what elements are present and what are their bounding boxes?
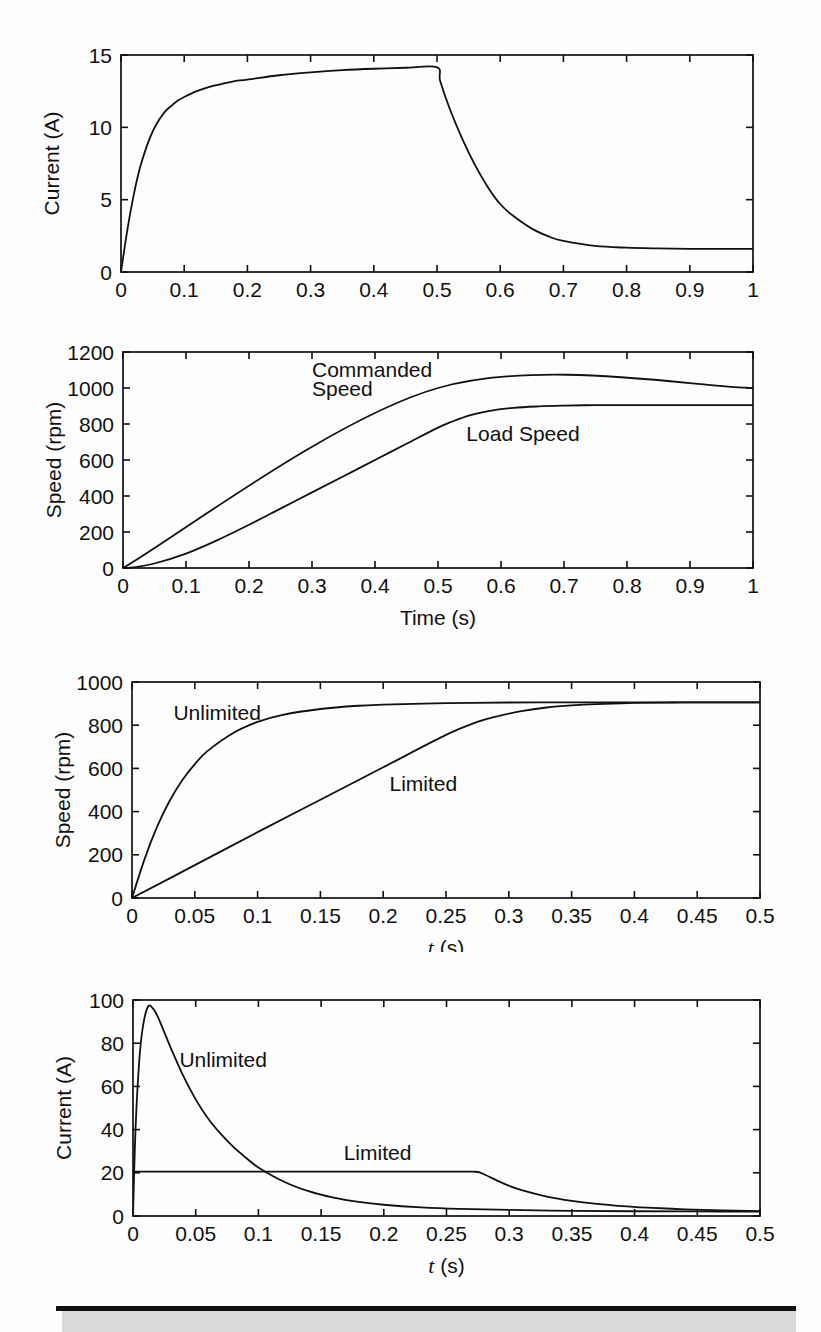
x-tick-label: 0.1 xyxy=(244,1222,273,1245)
x-tick-label: 0.1 xyxy=(170,278,199,301)
footer-panel xyxy=(62,1311,796,1332)
y-axis-title: Speed (rpm) xyxy=(51,732,74,849)
y-tick-label: 600 xyxy=(79,449,114,472)
y-tick-label: 400 xyxy=(79,485,114,508)
x-tick-label: 0.05 xyxy=(174,904,215,927)
y-tick-label: 1000 xyxy=(76,671,123,694)
x-tick-label: 0.45 xyxy=(677,904,718,927)
x-tick-label: 0.3 xyxy=(494,904,523,927)
y-tick-label: 400 xyxy=(88,800,123,823)
y-tick-label: 0 xyxy=(112,1205,124,1228)
curve-annotation: Load Speed xyxy=(466,422,579,445)
series-limited xyxy=(132,702,760,898)
x-tick-label: 0.6 xyxy=(486,574,515,597)
x-tick-label: 0.9 xyxy=(675,278,704,301)
y-tick-label: 1000 xyxy=(67,377,114,400)
y-axis-title: Current (A) xyxy=(52,1056,75,1160)
x-tick-label: 0.4 xyxy=(620,1222,650,1245)
x-tick-label: 0.5 xyxy=(422,278,451,301)
x-tick-label: 0.7 xyxy=(549,278,578,301)
x-tick-label: 0 xyxy=(115,278,127,301)
x-axis-title: t (s) xyxy=(428,1253,464,1278)
x-tick-label: 0.4 xyxy=(620,904,650,927)
chart-2-svg: 00.10.20.30.40.50.60.70.80.9102004006008… xyxy=(0,310,821,630)
series-unlimited xyxy=(132,702,760,898)
y-tick-label: 10 xyxy=(89,116,112,139)
y-axis-title: Current (A) xyxy=(40,112,63,216)
y-tick-label: 600 xyxy=(88,757,123,780)
plot-frame xyxy=(133,1000,760,1216)
y-tick-label: 800 xyxy=(79,413,114,436)
x-tick-label: 0.8 xyxy=(612,278,641,301)
x-tick-label: 0.25 xyxy=(426,904,467,927)
series-load-speed xyxy=(123,405,753,568)
curve-annotation: Limited xyxy=(344,1141,412,1164)
x-tick-label: 0.4 xyxy=(360,574,390,597)
x-tick-label: 0.2 xyxy=(234,574,263,597)
figure-page: 00.10.20.30.40.50.60.70.80.91051015Curre… xyxy=(0,0,821,1332)
x-tick-label: 0.45 xyxy=(677,1222,718,1245)
curve-annotation: Speed xyxy=(312,377,373,400)
x-axis-title: Time (s) xyxy=(400,606,476,629)
x-tick-label: 0.5 xyxy=(423,574,452,597)
y-tick-label: 100 xyxy=(89,989,124,1012)
x-tick-label: 0.3 xyxy=(495,1222,524,1245)
chart-4-svg: 00.050.10.150.20.250.30.350.40.450.50204… xyxy=(0,950,821,1280)
chart-speed-limited-vs-unlimited: 00.050.10.150.20.250.30.350.40.450.50200… xyxy=(0,632,821,952)
y-tick-label: 200 xyxy=(88,843,123,866)
plot-frame xyxy=(123,352,753,568)
plot-frame xyxy=(121,55,753,272)
x-tick-label: 0.35 xyxy=(551,1222,592,1245)
x-tick-label: 0.05 xyxy=(175,1222,216,1245)
x-tick-label: 0.9 xyxy=(675,574,704,597)
x-tick-label: 1 xyxy=(747,278,759,301)
x-tick-label: 0.1 xyxy=(171,574,200,597)
y-tick-label: 60 xyxy=(101,1075,124,1098)
x-tick-label: 0 xyxy=(127,1222,139,1245)
y-axis-title: Speed (rpm) xyxy=(42,402,65,519)
series-unlimited xyxy=(133,1005,760,1216)
x-tick-label: 0 xyxy=(117,574,129,597)
series-commanded-speed xyxy=(123,375,753,568)
series-limited xyxy=(133,1172,760,1211)
curve-annotation: Unlimited xyxy=(173,701,261,724)
y-tick-label: 200 xyxy=(79,521,114,544)
y-tick-label: 80 xyxy=(101,1032,124,1055)
x-tick-label: 0.25 xyxy=(426,1222,467,1245)
curve-annotation: Limited xyxy=(389,772,457,795)
x-tick-label: 0.7 xyxy=(549,574,578,597)
x-tick-label: 0.3 xyxy=(296,278,325,301)
y-tick-label: 5 xyxy=(100,188,112,211)
x-tick-label: 0 xyxy=(126,904,138,927)
curve-annotation: Unlimited xyxy=(179,1048,267,1071)
x-tick-label: 0.4 xyxy=(359,278,389,301)
chart-speed-vs-time: 00.10.20.30.40.50.60.70.80.9102004006008… xyxy=(0,310,821,630)
x-tick-label: 0.5 xyxy=(745,1222,774,1245)
y-tick-label: 0 xyxy=(111,887,123,910)
y-tick-label: 40 xyxy=(101,1118,124,1141)
x-tick-label: 0.2 xyxy=(369,1222,398,1245)
x-axis-title-unit: (s) xyxy=(434,1254,464,1277)
x-tick-label: 0.2 xyxy=(369,904,398,927)
x-tick-label: 0.15 xyxy=(300,904,341,927)
x-tick-label: 0.2 xyxy=(233,278,262,301)
x-tick-label: 0.3 xyxy=(297,574,326,597)
chart-3-svg: 00.050.10.150.20.250.30.350.40.450.50200… xyxy=(0,632,821,952)
chart-current-limited-vs-unlimited: 00.050.10.150.20.250.30.350.40.450.50204… xyxy=(0,950,821,1280)
x-tick-label: 0.6 xyxy=(486,278,515,301)
chart-current-vs-time: 00.10.20.30.40.50.60.70.80.91051015Curre… xyxy=(0,0,821,310)
y-tick-label: 20 xyxy=(101,1161,124,1184)
series-armature-current xyxy=(121,66,753,272)
x-tick-label: 1 xyxy=(747,574,759,597)
x-tick-label: 0.35 xyxy=(551,904,592,927)
y-tick-label: 0 xyxy=(102,557,114,580)
x-tick-label: 0.5 xyxy=(745,904,774,927)
x-tick-label: 0.15 xyxy=(301,1222,342,1245)
footer-bar xyxy=(56,1306,796,1332)
y-tick-label: 1200 xyxy=(67,341,114,364)
y-tick-label: 15 xyxy=(89,44,112,67)
y-tick-label: 800 xyxy=(88,714,123,737)
chart-1-svg: 00.10.20.30.40.50.60.70.80.91051015Curre… xyxy=(0,0,821,310)
x-tick-label: 0.1 xyxy=(243,904,272,927)
x-tick-label: 0.8 xyxy=(612,574,641,597)
